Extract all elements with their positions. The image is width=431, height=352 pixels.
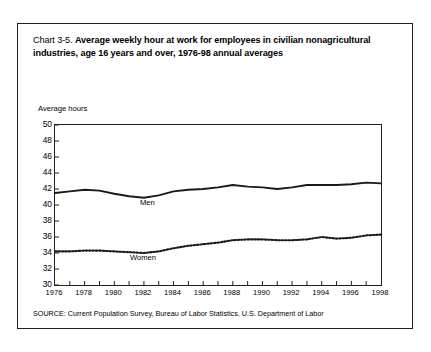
y-axis-title: Average hours bbox=[38, 104, 87, 113]
x-tick-label: 1996 bbox=[342, 288, 359, 297]
y-tick-label: 46 bbox=[30, 151, 52, 161]
x-tick-label: 1992 bbox=[283, 288, 300, 297]
y-tick-label: 34 bbox=[30, 247, 52, 257]
y-tick-label: 44 bbox=[30, 167, 52, 177]
y-tick-label: 36 bbox=[30, 231, 52, 241]
x-tick-label: 1980 bbox=[105, 288, 122, 297]
y-tick-label: 40 bbox=[30, 199, 52, 209]
series-label-women: Women bbox=[130, 253, 156, 262]
source-note: SOURCE: Current Population Survey, Burea… bbox=[33, 309, 324, 318]
plot-area bbox=[54, 124, 382, 286]
series-label-men: Men bbox=[140, 198, 155, 207]
chart-figure-frame: Chart 3-5. Average weekly hour at work f… bbox=[17, 23, 413, 329]
x-tick-label: 1984 bbox=[164, 288, 181, 297]
y-tick-label: 38 bbox=[30, 215, 52, 225]
x-tick-label: 1986 bbox=[194, 288, 211, 297]
x-tick-label: 1994 bbox=[312, 288, 329, 297]
y-tick-label: 48 bbox=[30, 135, 52, 145]
x-axis-tick-labels: 1976197819801982198419861988199019921994… bbox=[54, 288, 380, 302]
data-series-group bbox=[55, 183, 381, 253]
x-tick-label: 1998 bbox=[372, 288, 389, 297]
y-tick-label: 42 bbox=[30, 183, 52, 193]
chart-title-text: Average weekly hour at work for employee… bbox=[33, 35, 371, 58]
y-tick-label: 50 bbox=[30, 119, 52, 129]
y-tick-label: 32 bbox=[30, 263, 52, 273]
x-tick-label: 1978 bbox=[75, 288, 92, 297]
x-tick-label: 1990 bbox=[253, 288, 270, 297]
data-line-men bbox=[55, 183, 381, 198]
x-tick-label: 1988 bbox=[223, 288, 240, 297]
axis-tick-marks bbox=[55, 125, 366, 285]
data-line-women bbox=[55, 235, 381, 253]
x-tick-label: 1976 bbox=[46, 288, 63, 297]
chart-title: Chart 3-5. Average weekly hour at work f… bbox=[33, 34, 393, 60]
chart-number: Chart 3-5. bbox=[33, 35, 75, 45]
chart-plot-svg bbox=[55, 125, 381, 285]
x-tick-label: 1982 bbox=[134, 288, 151, 297]
y-axis-tick-labels: 3032343638404244464850 bbox=[28, 124, 52, 284]
